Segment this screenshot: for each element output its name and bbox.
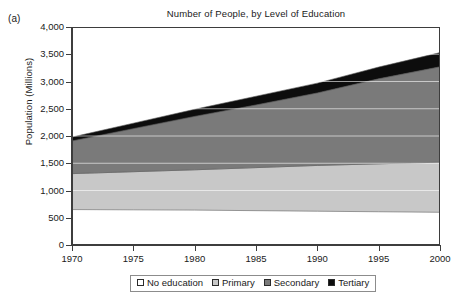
white-swatch-icon (137, 279, 144, 286)
legend-item-tertiary: Tertiary (328, 278, 369, 288)
y-tick-mark (66, 136, 72, 137)
x-tick-label: 2000 (415, 253, 459, 264)
legend-label: Tertiary (338, 278, 369, 288)
legend-item-primary: Primary (212, 278, 255, 288)
x-tick-label: 1980 (170, 253, 220, 264)
x-tick-label: 1990 (292, 253, 342, 264)
x-tick-label: 1970 (47, 253, 97, 264)
y-tick-mark (66, 191, 72, 192)
y-tick-mark (66, 54, 72, 55)
black-swatch-icon (328, 279, 335, 286)
area-secondary (72, 67, 440, 174)
y-tick-mark (66, 109, 72, 110)
chart-title: Number of People, by Level of Education (72, 8, 440, 19)
x-tick-mark (317, 246, 318, 251)
x-tick-mark (133, 246, 134, 251)
y-tick-mark (66, 82, 72, 83)
stacked-area-plot (72, 27, 440, 245)
y-tick-label: 3,000 (20, 77, 64, 87)
y-tick-label: 4,000 (20, 22, 64, 32)
legend-item-no-education: No education (137, 278, 203, 288)
y-tick-label: 1,000 (20, 186, 64, 196)
y-tick-label: 2,500 (20, 104, 64, 114)
x-tick-mark (195, 246, 196, 251)
y-tick-label: 500 (20, 213, 64, 223)
x-tick-mark (72, 246, 73, 251)
y-tick-mark (66, 245, 72, 246)
dark-gray-swatch-icon (264, 279, 271, 286)
x-tick-label: 1975 (108, 253, 158, 264)
x-tick-label: 1985 (231, 253, 281, 264)
legend-label: Secondary (274, 278, 319, 288)
plot-area (72, 27, 440, 245)
y-tick-mark (66, 27, 72, 28)
area-no-education (72, 210, 440, 245)
legend-item-secondary: Secondary (264, 278, 319, 288)
y-tick-mark (66, 163, 72, 164)
legend-label: Primary (222, 278, 255, 288)
y-tick-label: 3,500 (20, 49, 64, 59)
y-tick-label: 0 (20, 240, 64, 250)
legend-label: No education (147, 278, 203, 288)
y-tick-mark (66, 218, 72, 219)
chart-figure: (a) Number of People, by Level of Educat… (0, 0, 459, 308)
chart-legend: No education Primary Secondary Tertiary (130, 275, 376, 292)
x-tick-mark (379, 246, 380, 251)
x-tick-label: 1995 (354, 253, 404, 264)
light-gray-swatch-icon (212, 279, 219, 286)
y-tick-label: 2,000 (20, 131, 64, 141)
x-tick-mark (440, 246, 441, 251)
x-tick-mark (256, 246, 257, 251)
y-tick-label: 1,500 (20, 158, 64, 168)
